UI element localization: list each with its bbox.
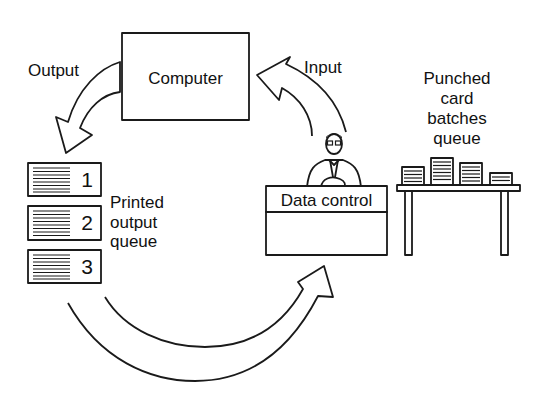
card-batch-1 [402,167,424,185]
svg-text:batches: batches [427,109,487,128]
punched-card-queue-label: Punched card batches queue [423,69,490,148]
punched-card-table [397,158,520,255]
printout-2: 2 [28,206,101,240]
card-batch-3 [460,163,482,185]
svg-text:card: card [440,89,473,108]
batch-processing-diagram: Computer Output Input 1 2 [0,0,542,404]
printout-number: 3 [81,255,93,278]
printed-output-queue: 1 2 3 Printed output queue [28,163,164,283]
printout-3: 3 [28,250,101,283]
svg-text:Punched: Punched [423,69,490,88]
svg-text:queue: queue [433,129,480,148]
printed-output-label-line3: queue [110,232,157,251]
input-label: Input [304,58,342,77]
computer-label: Computer [148,69,223,88]
printout-1: 1 [28,163,101,196]
return-arrow-icon [68,266,333,381]
printed-output-label-line1: Printed [110,193,164,212]
card-batch-4 [490,173,512,185]
card-batch-2 [431,158,453,185]
data-control-node: Data control [266,186,387,255]
output-label: Output [28,61,79,80]
computer-node: Computer [122,33,249,120]
printout-number: 2 [81,211,93,234]
data-control-label: Data control [281,191,373,210]
data-control-operator-icon [307,134,361,188]
printout-number: 1 [81,168,93,191]
printed-output-label-line2: output [110,213,158,232]
